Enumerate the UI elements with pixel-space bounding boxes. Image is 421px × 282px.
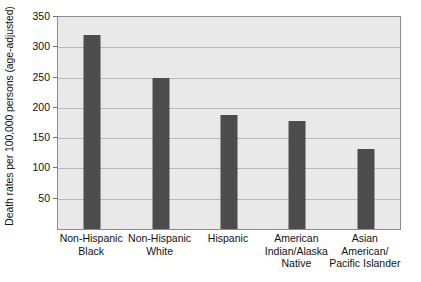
y-axis-tick-label: 100 [32,161,50,173]
bars-layer [58,17,400,229]
bar [357,149,374,229]
y-axis-tick-label: 300 [32,40,50,52]
x-axis-category-labels: Non-HispanicBlackNon-HispanicWhiteHispan… [57,232,399,282]
y-axis-tick-label: 150 [32,131,50,143]
y-axis-tick-label: 200 [32,101,50,113]
y-axis-tick-labels: 50100150200250300350 [18,16,54,228]
y-axis-tick-label: 250 [32,71,50,83]
y-axis-title: Death rates per 100,000 persons (age-adj… [0,0,18,232]
plot-area [57,16,401,230]
bar [289,121,306,229]
x-axis-category-label: AsianAmerican/Pacific Islander [322,232,408,270]
bar [152,78,169,229]
y-axis-title-text: Death rates per 100,000 persons (age-adj… [3,6,15,226]
y-axis-tick-label: 350 [32,10,50,22]
bar [221,115,238,229]
bar [84,35,101,229]
y-axis-tick-label: 50 [38,192,50,204]
bar-chart-figure: Death rates per 100,000 persons (age-adj… [0,0,421,282]
